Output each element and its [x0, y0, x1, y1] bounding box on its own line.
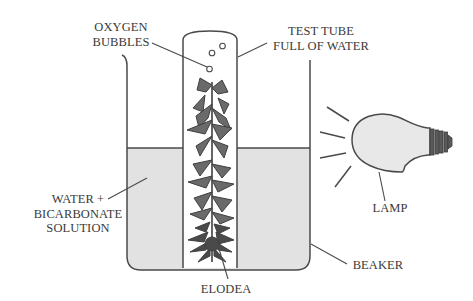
label-oxygen-bubbles-line2: BUBBLES — [88, 35, 154, 50]
leader-test-tube — [238, 43, 267, 57]
label-beaker: BEAKER — [348, 258, 408, 273]
label-oxygen-bubbles-line1: OXYGEN — [88, 20, 154, 35]
ray — [320, 132, 345, 138]
label-solution-line1: WATER + — [28, 192, 128, 207]
label-lamp: LAMP — [368, 201, 412, 216]
ray — [320, 153, 346, 158]
label-test-tube-line2: FULL OF WATER — [268, 39, 374, 54]
label-solution: WATER + BICARBONATE SOLUTION — [28, 192, 128, 236]
lamp — [352, 114, 452, 172]
label-solution-line3: SOLUTION — [28, 221, 128, 236]
leader-lamp — [379, 172, 385, 201]
label-test-tube: TEST TUBE FULL OF WATER — [268, 24, 374, 53]
light-rays — [320, 107, 351, 187]
lamp-base — [430, 129, 452, 155]
leader-beaker — [311, 244, 347, 264]
photosynthesis-apparatus-diagram — [0, 0, 473, 301]
label-oxygen-bubbles: OXYGEN BUBBLES — [88, 20, 154, 49]
ray — [335, 166, 351, 187]
label-elodea: ELODEA — [186, 282, 266, 297]
label-solution-line2: BICARBONATE — [28, 207, 128, 222]
lamp-bulb — [352, 114, 430, 172]
ray — [327, 107, 349, 121]
label-test-tube-line1: TEST TUBE — [268, 24, 374, 39]
